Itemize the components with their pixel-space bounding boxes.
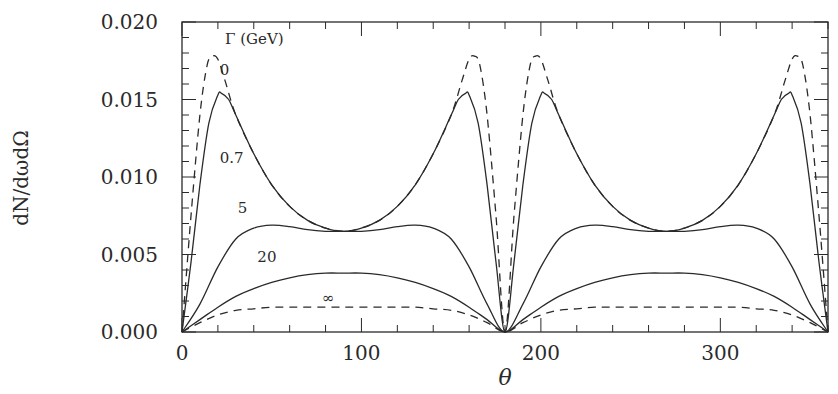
y-tick-label: 0.015 xyxy=(101,88,158,112)
x-tick-label: 0 xyxy=(176,341,189,365)
y-axis-label: dN/dωdΩ xyxy=(9,130,33,226)
curve-gamma-5 xyxy=(182,225,828,332)
chart: 0.0000.0050.0100.0150.020 0100200300 Γ (… xyxy=(0,0,838,394)
plot-frame xyxy=(182,22,828,332)
plot-area xyxy=(182,56,828,332)
annotation-label: 20 xyxy=(257,248,276,266)
annotation-label: 0.7 xyxy=(220,149,244,167)
y-tick-label: 0.020 xyxy=(101,10,158,34)
y-tick-label: 0.005 xyxy=(101,243,158,267)
curve-gamma-0.7 xyxy=(182,92,828,332)
annotation-label: Γ (GeV) xyxy=(225,30,284,48)
annotation-label: ∞ xyxy=(322,289,335,307)
curve-annotations: Γ (GeV)00.7520∞ xyxy=(220,30,335,307)
y-tick-labels: 0.0000.0050.0100.0150.020 xyxy=(101,10,158,344)
axes-box xyxy=(182,22,828,332)
axis-ticks xyxy=(182,22,828,332)
y-tick-label: 0.000 xyxy=(101,320,158,344)
x-tick-labels: 0100200300 xyxy=(176,341,740,365)
x-tick-label: 200 xyxy=(522,341,560,365)
y-tick-label: 0.010 xyxy=(101,165,158,189)
x-axis-label: θ xyxy=(498,365,511,390)
x-tick-label: 300 xyxy=(701,341,739,365)
annotation-label: 5 xyxy=(238,199,248,217)
x-tick-label: 100 xyxy=(342,341,380,365)
annotation-label: 0 xyxy=(220,61,230,79)
curve-gamma-20 xyxy=(182,273,828,332)
